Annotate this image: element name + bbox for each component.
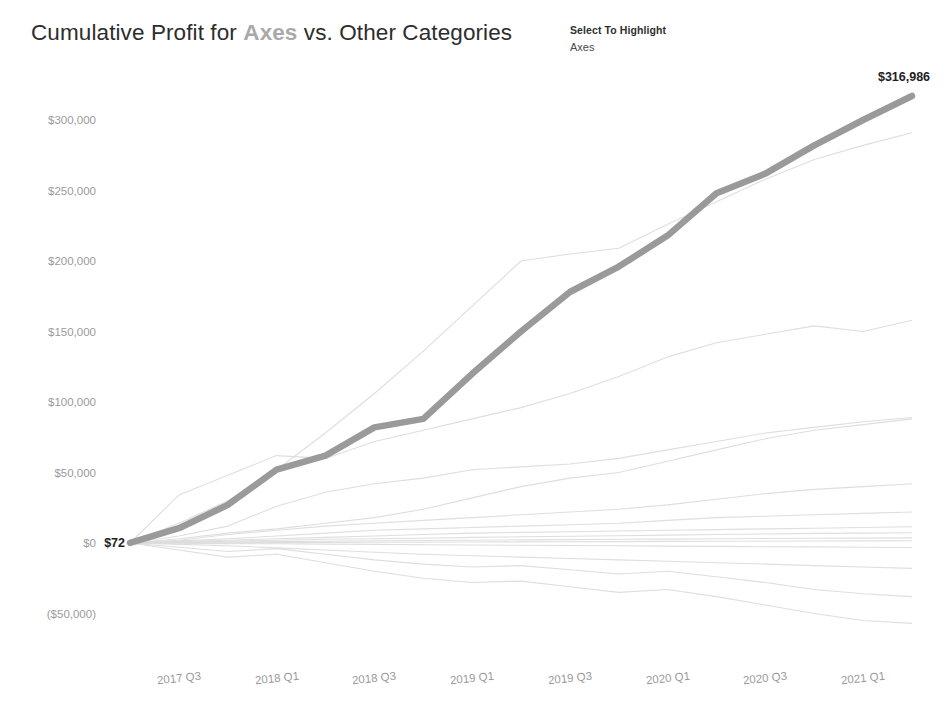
x-axis-tick-label: 2018 Q1	[254, 670, 299, 687]
x-axis-tick-label: 2019 Q1	[450, 670, 495, 687]
x-axis-tick-label: 2020 Q1	[645, 670, 690, 687]
start-value-label: $72	[104, 536, 125, 550]
x-axis-tick-label: 2019 Q3	[547, 670, 592, 687]
x-axis-tick-label: 2017 Q3	[156, 670, 201, 687]
plot-area: $300,000$250,000$200,000$150,000$100,000…	[0, 0, 947, 718]
x-axis-tick-label: 2018 Q3	[352, 670, 397, 687]
x-axis-tick-label: 2021 Q1	[841, 670, 886, 687]
x-axis-tick-label: 2020 Q3	[743, 670, 788, 687]
end-value-label: $316,986	[878, 70, 930, 84]
x-axis: 2017 Q32018 Q12018 Q32019 Q12019 Q32020 …	[0, 0, 947, 718]
visualization-canvas: Cumulative Profit for Axes vs. Other Cat…	[0, 0, 947, 718]
